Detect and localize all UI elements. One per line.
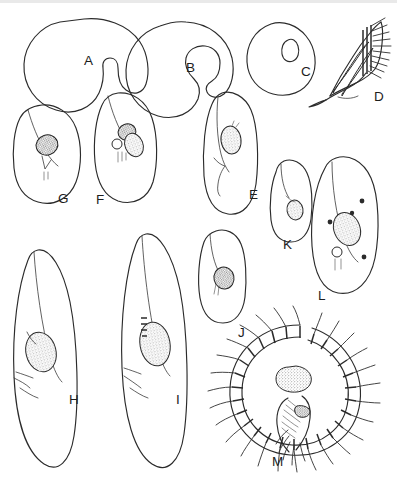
figure-m: M (208, 306, 380, 472)
figure-label-g: G (58, 191, 69, 206)
figure-d-inner-fold (326, 73, 366, 100)
figure-c: C (247, 23, 315, 96)
figure-a: A (24, 19, 148, 112)
illustration-plate: A B C (0, 0, 397, 483)
figure-k-oral-groove (281, 164, 289, 198)
figure-f-cirri (118, 152, 126, 162)
figure-l: L (312, 157, 378, 303)
figure-i-macronucleus (136, 320, 173, 369)
figure-d-base-line (338, 96, 358, 98)
figure-c-outline (247, 23, 315, 96)
top-edge-strip (0, 0, 397, 3)
figure-e-oral-lip (214, 158, 225, 196)
figure-g: G (13, 105, 80, 206)
figure-j: J (199, 230, 246, 340)
figure-l-micronucleus-4 (362, 255, 367, 260)
figure-label-i: I (176, 392, 180, 407)
figure-label-l: L (318, 288, 326, 303)
figure-e: E (203, 92, 258, 214)
figure-h-oral-cilia (14, 372, 38, 398)
figure-label-m: M (272, 454, 284, 469)
figure-l-micronucleus-3 (328, 220, 333, 225)
figure-k: K (270, 160, 312, 252)
figure-l-micronucleus-2 (350, 211, 354, 215)
figure-m-macronucleus (276, 366, 311, 392)
figure-l-cirri (335, 259, 341, 270)
figure-f: F (94, 93, 156, 207)
figure-label-k: K (283, 237, 292, 252)
figure-label-c: C (301, 64, 311, 79)
figure-l-contractile-vacuole (332, 247, 342, 257)
figure-d: D (309, 18, 391, 107)
figure-i-oral-cilia (124, 368, 148, 398)
figure-label-b: B (186, 60, 195, 75)
figure-g-cirri (44, 172, 48, 180)
figure-f-contractile-vacuole (112, 139, 122, 149)
figure-h: H (14, 250, 79, 467)
figure-c-vacuole (282, 39, 299, 61)
figure-label-f: F (96, 192, 105, 207)
figure-e-macronucleus (219, 125, 243, 156)
figure-h-macronucleus (22, 329, 61, 375)
figure-l-micronucleus-1 (360, 199, 365, 204)
figure-g-oral-fork (42, 156, 51, 169)
figure-l-macronucleus (329, 208, 366, 249)
figure-d-tail (309, 100, 326, 107)
figure-label-h: H (69, 392, 79, 407)
figure-m-cytostome-right (296, 396, 310, 450)
figure-m-oral-band (295, 406, 310, 418)
figure-label-a: A (84, 53, 93, 68)
plate-canvas: A B C (0, 0, 397, 483)
figure-label-e: E (249, 187, 258, 202)
figure-i: I (122, 234, 187, 468)
figure-label-d: D (374, 89, 384, 104)
